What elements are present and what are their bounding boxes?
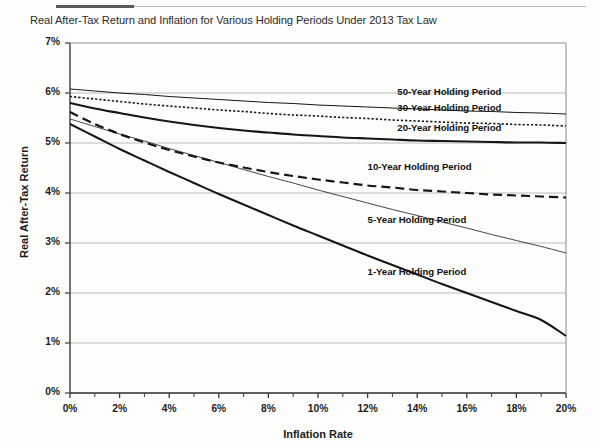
y-tick-label: 0% <box>20 386 60 397</box>
y-tick-label: 4% <box>20 186 60 197</box>
x-tick-label: 14% <box>394 403 440 414</box>
y-tick-label: 1% <box>20 336 60 347</box>
series-line <box>70 124 566 336</box>
x-tick-label: 2% <box>97 403 143 414</box>
plot-area <box>0 0 600 448</box>
x-tick-label: 6% <box>196 403 242 414</box>
y-tick-label: 5% <box>20 136 60 147</box>
y-tick-label: 3% <box>20 236 60 247</box>
x-tick-label: 16% <box>444 403 490 414</box>
series-label: 30-Year Holding Period <box>397 102 501 113</box>
series-label: 1-Year Holding Period <box>368 266 467 277</box>
series-label: 5-Year Holding Period <box>368 214 467 225</box>
series-label: 10-Year Holding Period <box>368 161 472 172</box>
gridlines <box>70 93 566 393</box>
chart-figure: Real After-Tax Return and Inflation for … <box>0 0 600 448</box>
series-label: 50-Year Holding Period <box>397 86 501 97</box>
x-tick-label: 8% <box>245 403 291 414</box>
x-tick-label: 20% <box>543 403 589 414</box>
x-tick-label: 10% <box>295 403 341 414</box>
series-label: 20-Year Holding Period <box>397 122 501 133</box>
y-tick-label: 2% <box>20 286 60 297</box>
x-tick-label: 0% <box>47 403 93 414</box>
x-tick-label: 18% <box>493 403 539 414</box>
x-tick-label: 12% <box>345 403 391 414</box>
y-tick-label: 7% <box>20 36 60 47</box>
series-line <box>70 119 566 253</box>
y-tick-label: 6% <box>20 86 60 97</box>
x-tick-label: 4% <box>146 403 192 414</box>
x-axis-title: Inflation Rate <box>70 428 566 440</box>
